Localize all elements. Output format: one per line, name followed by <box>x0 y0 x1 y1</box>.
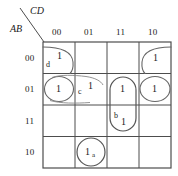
column-header-01: 01 <box>84 28 94 37</box>
karnaugh-map: CD AB 00 01 11 10 00 01 11 10 1 1 1 1 1 … <box>0 0 178 176</box>
axis-label-ab: AB <box>10 24 22 34</box>
cell-value-r01c01: 1 <box>88 81 93 91</box>
group-label-a: a <box>92 152 95 159</box>
cell-value-r01c00: 1 <box>56 84 61 94</box>
row-header-01: 01 <box>25 85 35 94</box>
cell-value-r01c10: 1 <box>152 84 157 94</box>
group-label-d: d <box>46 61 50 69</box>
group-label-c: c <box>78 88 82 96</box>
column-header-10: 10 <box>148 28 158 37</box>
cell-value-r10c01: 1 <box>85 147 90 157</box>
row-header-11: 11 <box>25 117 34 126</box>
column-header-11: 11 <box>116 28 125 37</box>
cell-value-r01c11: 1 <box>120 84 125 94</box>
axis-label-cd: CD <box>30 6 44 16</box>
row-header-10: 10 <box>25 148 35 157</box>
column-header-00: 00 <box>52 28 62 37</box>
cell-value-r00c10: 1 <box>153 53 158 63</box>
group-label-b: b <box>114 112 118 120</box>
row-header-00: 00 <box>25 54 35 63</box>
cell-value-r11c11: 1 <box>121 117 126 127</box>
cell-value-r00c00: 1 <box>57 51 62 61</box>
group-a-circle <box>77 138 105 166</box>
